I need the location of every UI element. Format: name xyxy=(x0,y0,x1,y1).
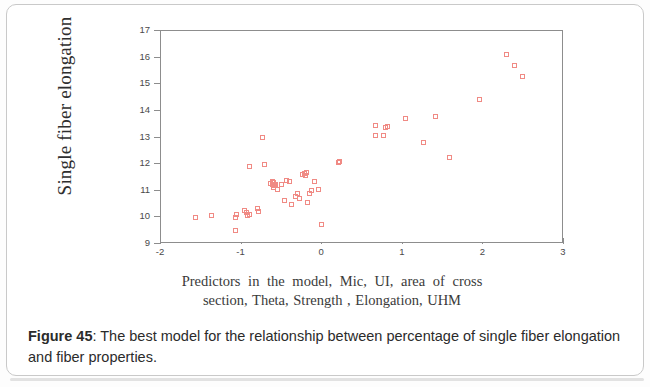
data-point xyxy=(504,52,509,57)
data-point xyxy=(403,116,408,121)
page-shadow xyxy=(10,378,644,381)
y-axis-title: Single fiber elongation xyxy=(54,0,76,221)
data-point xyxy=(512,63,517,68)
data-point xyxy=(282,198,287,203)
data-point xyxy=(421,140,426,145)
y-axis-tick-label: 13 xyxy=(124,131,150,142)
figure-caption-text: The best model for the relationship betw… xyxy=(28,328,620,365)
data-point xyxy=(193,215,198,220)
x-axis-title-line-2: section, Theta, Strength , Elongation, U… xyxy=(132,291,532,310)
y-axis-tick-label: 17 xyxy=(124,24,150,35)
data-point xyxy=(247,212,252,217)
data-point xyxy=(273,182,278,187)
data-point xyxy=(373,133,378,138)
data-point xyxy=(260,135,265,140)
y-axis-tick-label: 12 xyxy=(124,157,150,168)
y-axis-tick-label: 16 xyxy=(124,51,150,62)
data-point xyxy=(477,97,482,102)
data-point xyxy=(447,155,452,160)
data-point xyxy=(275,187,280,192)
data-point xyxy=(309,188,314,193)
data-point xyxy=(256,209,261,214)
data-point xyxy=(297,196,302,201)
x-axis-tick-label: 1 xyxy=(387,246,417,257)
data-point xyxy=(234,212,239,217)
data-point xyxy=(304,170,309,175)
data-point xyxy=(373,123,378,128)
data-point xyxy=(433,114,438,119)
x-axis-tick-label: 2 xyxy=(467,246,497,257)
x-axis-title-line-1: Predictors in the model, Mic, UI, area o… xyxy=(132,272,532,291)
scatter-figure: Single fiber elongation 9101112131415161… xyxy=(0,0,650,330)
x-axis-tick xyxy=(563,238,564,244)
data-point xyxy=(305,200,310,205)
data-point xyxy=(233,228,238,233)
data-point xyxy=(520,74,525,79)
data-point xyxy=(287,179,292,184)
data-point xyxy=(381,133,386,138)
data-point xyxy=(385,124,390,129)
plot-area xyxy=(160,30,563,243)
x-axis-tick-label: -1 xyxy=(226,246,256,257)
data-point xyxy=(209,213,214,218)
data-point xyxy=(289,202,294,207)
x-axis-tick-label: 3 xyxy=(548,246,578,257)
figure-caption: Figure 45: The best model for the relati… xyxy=(28,326,628,368)
data-point xyxy=(316,187,321,192)
scanned-page: Single fiber elongation 9101112131415161… xyxy=(0,0,650,387)
figure-number: Figure 45 xyxy=(28,328,92,344)
y-axis-tick-label: 10 xyxy=(124,210,150,221)
x-axis-title: Predictors in the model, Mic, UI, area o… xyxy=(132,272,532,310)
x-axis-tick-label: 0 xyxy=(306,246,336,257)
data-point xyxy=(319,222,324,227)
y-axis-tick-label: 11 xyxy=(124,184,150,195)
y-axis-tick-label: 14 xyxy=(124,104,150,115)
data-point xyxy=(262,162,267,167)
data-point xyxy=(312,179,317,184)
y-axis-tick-label: 15 xyxy=(124,77,150,88)
data-point xyxy=(337,159,342,164)
x-axis-tick-label: -2 xyxy=(145,246,175,257)
data-point xyxy=(247,164,252,169)
